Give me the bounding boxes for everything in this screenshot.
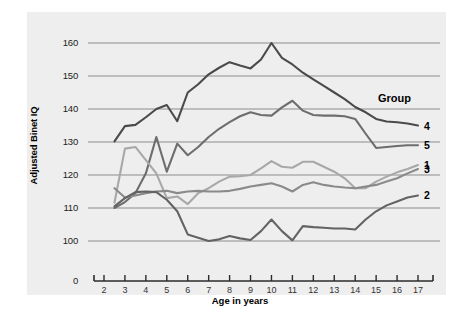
- x-tick-label: 2: [96, 285, 112, 295]
- x-tick-label: 16: [389, 285, 405, 295]
- y-tick-label: 130: [52, 136, 78, 147]
- y-tick-label: 120: [52, 169, 78, 180]
- y-tick-label: 140: [52, 103, 78, 114]
- x-tick-label: 9: [243, 285, 259, 295]
- x-tick-label: 14: [347, 285, 363, 295]
- series-line-4: [114, 43, 418, 141]
- x-tick-label: 11: [284, 285, 300, 295]
- x-tick-label: 8: [222, 285, 238, 295]
- series-label-5: 5: [424, 139, 430, 151]
- x-tick-label: 13: [326, 285, 342, 295]
- y-tick-label: 0: [52, 275, 78, 286]
- series-label-3: 3: [424, 163, 430, 175]
- x-axis-title: Age in years: [150, 295, 330, 306]
- x-tick-label: 3: [117, 285, 133, 295]
- y-tick-label: 150: [52, 70, 78, 81]
- x-tick-label: 6: [180, 285, 196, 295]
- x-tick-label: 17: [410, 285, 426, 295]
- x-tick-label: 10: [263, 285, 279, 295]
- x-tick-label: 4: [138, 285, 154, 295]
- series-label-4: 4: [424, 120, 430, 132]
- gridlines: [88, 43, 440, 241]
- series-line-2: [114, 192, 418, 242]
- series-label-2: 2: [424, 189, 430, 201]
- y-tick-label: 160: [52, 37, 78, 48]
- x-tick-label: 7: [201, 285, 217, 295]
- x-tick-label: 15: [368, 285, 384, 295]
- y-tick-label: 100: [52, 235, 78, 246]
- y-axis-title: Adjusted Binet IQ: [28, 86, 39, 206]
- legend-title: Group: [378, 92, 411, 104]
- x-tick-label: 5: [159, 285, 175, 295]
- x-axis: [94, 275, 433, 281]
- x-tick-label: 12: [305, 285, 321, 295]
- y-tick-label: 110: [52, 202, 78, 213]
